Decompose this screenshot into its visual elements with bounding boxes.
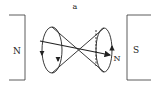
right-pole-label: S <box>133 45 139 55</box>
right-magnet-pole: S <box>127 15 151 80</box>
left-pole-label: N <box>13 46 21 56</box>
left-magnet-pole: N <box>9 15 25 80</box>
needle-label: N <box>114 54 121 63</box>
right-ellipse <box>96 28 112 72</box>
double-cone-loop <box>42 27 112 73</box>
figure-label: a <box>73 2 78 11</box>
magnetic-field-diagram: a N S N <box>0 0 151 85</box>
left-ellipse <box>42 27 62 73</box>
